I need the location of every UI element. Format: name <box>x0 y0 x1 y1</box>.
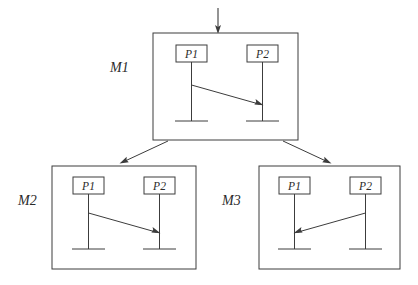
instance-label-m1-p2: P2 <box>255 48 269 60</box>
msc-frame-m2-label: M2 <box>17 193 37 208</box>
instance-label-m2-p2: P2 <box>152 180 166 192</box>
refinement-arrow-m1-to-m3 <box>283 141 332 164</box>
instance-label-m1-p1: P1 <box>184 48 198 60</box>
input-arrow <box>215 8 221 34</box>
instance-label-m3-p2: P2 <box>358 180 372 192</box>
msc-frame-m3[interactable]: M3 P1 P2 <box>221 166 400 269</box>
msc-frame-m2[interactable]: M2 P1 P2 <box>17 166 196 269</box>
refinement-line-m1-m2 <box>124 141 168 162</box>
msc-frame-m1-label: M1 <box>109 60 129 75</box>
instance-label-m3-p1: P1 <box>287 180 301 192</box>
refinement-arrow-m1-to-m2 <box>120 141 169 164</box>
instance-label-m2-p1: P1 <box>81 180 95 192</box>
msc-frame-m1[interactable]: M1 P1 P2 <box>109 33 298 140</box>
diagram-canvas: M1 P1 P2 <box>0 0 418 285</box>
msc-frame-m3-label: M3 <box>221 193 241 208</box>
msc-refinement-diagram: M1 P1 P2 <box>0 0 418 285</box>
refinement-line-m1-m3 <box>283 141 327 162</box>
